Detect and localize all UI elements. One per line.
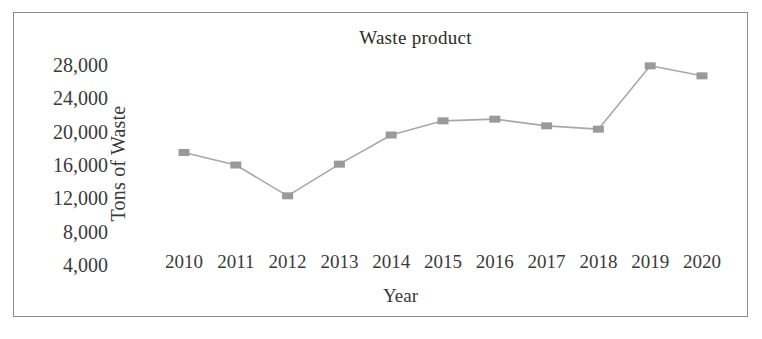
x-axis-title: Year [14, 285, 747, 307]
data-point-2015 [438, 117, 449, 124]
data-point-2013 [334, 161, 345, 168]
data-point-2020 [697, 72, 708, 79]
y-axis-tick-4000: 4,000 [22, 255, 108, 275]
data-point-2014 [386, 132, 397, 139]
data-point-2017 [541, 122, 552, 129]
figure-frame: Waste product 28,00024,00020,00016,00012… [13, 12, 748, 317]
chart-page: Waste product 28,00024,00020,00016,00012… [0, 0, 762, 339]
y-axis-tick-labels: 28,00024,00020,00016,00012,0008,0004,000 [14, 13, 108, 318]
y-axis-title: Tons of Waste [106, 73, 132, 253]
y-axis-tick-8000: 8,000 [22, 222, 108, 242]
data-point-2016 [489, 116, 500, 123]
y-axis-tick-12000: 12,000 [22, 188, 108, 208]
y-axis-tick-16000: 16,000 [22, 155, 108, 175]
y-axis-tick-28000: 28,000 [22, 55, 108, 75]
x-axis-tick-labels: 2010201120122013201420152016201720182019… [134, 251, 749, 281]
data-point-2011 [230, 162, 241, 169]
data-point-2019 [645, 62, 656, 69]
x-axis-tick-2020: 2020 [672, 251, 732, 273]
data-point-2018 [593, 126, 604, 133]
y-axis-title-label: Tons of Waste [108, 105, 131, 221]
y-axis-tick-20000: 20,000 [22, 122, 108, 142]
data-point-2010 [179, 149, 190, 156]
series-line [184, 66, 702, 196]
data-point-2012 [282, 192, 293, 199]
y-axis-tick-24000: 24,000 [22, 88, 108, 108]
